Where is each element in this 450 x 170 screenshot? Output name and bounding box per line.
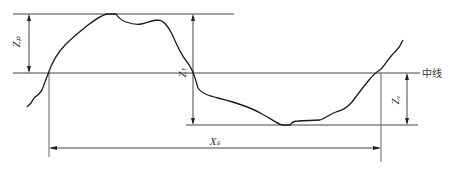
zt-label: Zₜ [176, 67, 188, 77]
profile-diagram: Zₚ Zₜ Zᵥ Xₛ 中线 [0, 0, 450, 170]
zp-label: Zₚ [10, 36, 22, 47]
profile-curve [27, 14, 403, 125]
zp-arrow-up [27, 14, 31, 21]
xs-label: Xₛ [209, 135, 222, 147]
zv-arrow-up [405, 73, 409, 80]
zt-arrow-down [191, 118, 195, 125]
xs-arrow-right [373, 146, 381, 150]
zp-arrow-down [27, 66, 31, 73]
xs-arrow-left [49, 146, 57, 150]
zv-label: Zᵥ [389, 95, 401, 104]
zv-arrow-down [405, 118, 409, 125]
mean-line-label: 中线 [422, 67, 442, 79]
zt-arrow-up [191, 14, 195, 21]
